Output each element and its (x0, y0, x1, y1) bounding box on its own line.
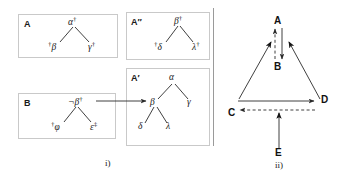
graph-node-B: B (274, 62, 281, 72)
graph-node-C: C (228, 108, 235, 118)
panel-ii-caption: ii) (275, 160, 283, 170)
graph-node-E: E (275, 148, 282, 158)
graph-node-D: D (321, 95, 328, 105)
graph-node-A: A (274, 16, 281, 26)
figure-root: A α† †β γ† A″ β† †δ λ† A′ α β γ (0, 0, 341, 179)
panel-ii-graph (0, 0, 341, 179)
